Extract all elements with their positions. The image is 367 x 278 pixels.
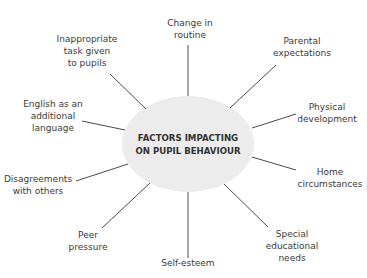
factor-text: Home [298,166,363,178]
factor-text: with others [4,185,72,197]
factor-text: educational [266,240,319,252]
factor-home-circumstances: Home circumstances [298,166,363,190]
connector-special-educational-needs [224,184,268,227]
factor-self-esteem: Self-esteem [161,257,214,269]
connector-inappropriate-task [110,74,146,109]
connector-peer-pressure [102,183,150,228]
central-topic: FACTORS IMPACTING ON PUPIL BEHAVIOUR [135,132,240,158]
connector-english-additional-language [82,121,125,130]
factor-disagreements-with-others: Disagreements with others [4,173,72,197]
central-topic-line2: ON PUPIL BEHAVIOUR [135,145,240,158]
factor-text: task given [57,45,118,57]
factor-physical-development: Physical development [297,101,356,125]
central-topic-line1: FACTORS IMPACTING [135,132,240,145]
factor-english-additional-language: English as an additional language [23,98,83,134]
factor-text: needs [266,252,319,264]
factor-special-educational-needs: Special educational needs [266,228,319,264]
factor-text: Self-esteem [161,257,214,269]
factor-text: additional [23,110,83,122]
factor-text: circumstances [298,178,363,190]
factor-change-in-routine: Change in routine [167,17,213,41]
factor-text: to pupils [57,57,118,69]
factor-parental-expectations: Parental expectations [273,35,331,59]
connector-physical-development [252,114,296,128]
factor-text: Disagreements [4,173,72,185]
factor-text: Parental [273,35,331,47]
factor-text: English as an [23,98,83,110]
factor-text: expectations [273,47,331,59]
factor-inappropriate-task: Inappropriate task given to pupils [57,33,118,69]
factor-text: pressure [69,241,108,253]
factor-text: development [297,113,356,125]
connector-parental-expectations [230,65,276,108]
factor-text: Physical [297,101,356,113]
connector-disagreements [76,164,128,181]
factor-text: routine [167,29,213,41]
factor-text: Change in [167,17,213,29]
factor-text: Inappropriate [57,33,118,45]
factor-text: Special [266,228,319,240]
factor-peer-pressure: Peer pressure [69,229,108,253]
factor-text: Peer [69,229,108,241]
connector-home-circumstances [252,157,296,170]
factor-text: language [23,122,83,134]
